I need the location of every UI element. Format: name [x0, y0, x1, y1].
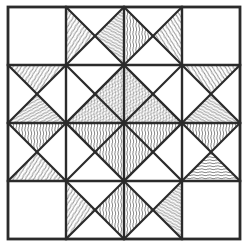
- quilt-block-diagram: [0, 0, 249, 248]
- quilt-block-figure: Quilt Block Pattern Hand-drawn patchwork…: [0, 0, 249, 248]
